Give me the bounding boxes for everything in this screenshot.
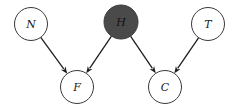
diagram-canvas: NHTFC: [0, 0, 237, 110]
edges-layer: [41, 36, 199, 74]
edge-line: [41, 37, 64, 69]
node-label: N: [25, 18, 36, 31]
node-label: H: [115, 16, 126, 29]
edge-line: [178, 38, 199, 69]
edge-t-to-c: [174, 38, 198, 74]
node-label: F: [72, 81, 81, 94]
edge-line: [131, 36, 153, 68]
node-label: C: [161, 81, 170, 94]
node-c: C: [149, 71, 182, 104]
node-t: T: [192, 8, 225, 41]
node-h: H: [104, 5, 138, 39]
edge-h-to-f: [86, 36, 111, 73]
node-f: F: [61, 71, 94, 104]
edge-line: [90, 36, 112, 68]
edge-h-to-c: [131, 36, 156, 73]
edge-n-to-f: [41, 37, 68, 73]
graphical-model-diagram: NHTFC: [0, 0, 237, 110]
node-n: N: [15, 8, 48, 41]
arrowhead-icon: [86, 66, 92, 73]
arrowhead-icon: [174, 66, 180, 73]
arrowhead-icon: [61, 66, 67, 73]
arrowhead-icon: [150, 66, 156, 73]
nodes-layer: NHTFC: [15, 5, 225, 104]
